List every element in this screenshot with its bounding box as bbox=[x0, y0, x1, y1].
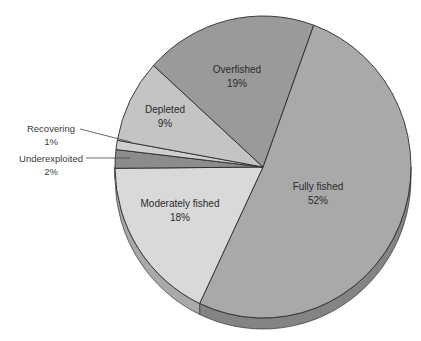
overfished-value: 19% bbox=[227, 78, 247, 89]
depleted-value: 9% bbox=[158, 118, 173, 129]
fully-fished-label: Fully fished bbox=[293, 181, 344, 192]
moderately-fished-value: 18% bbox=[170, 212, 190, 223]
moderately-fished-label: Moderately fished bbox=[141, 198, 220, 209]
fully-fished-value: 52% bbox=[308, 195, 328, 206]
recovering-value: 1% bbox=[44, 136, 58, 147]
pie-chart: Overfished 19% Depleted 9% Fully fished … bbox=[0, 0, 421, 341]
pie-slices bbox=[115, 16, 411, 318]
depleted-label: Depleted bbox=[145, 104, 185, 115]
recovering-label: Recovering bbox=[27, 123, 75, 134]
callout-underexploited: Underexploited 2% bbox=[19, 153, 130, 177]
underexploited-value: 2% bbox=[44, 166, 58, 177]
callout-recovering: Recovering 1% bbox=[27, 123, 131, 147]
overfished-label: Overfished bbox=[213, 64, 261, 75]
underexploited-label: Underexploited bbox=[19, 153, 83, 164]
